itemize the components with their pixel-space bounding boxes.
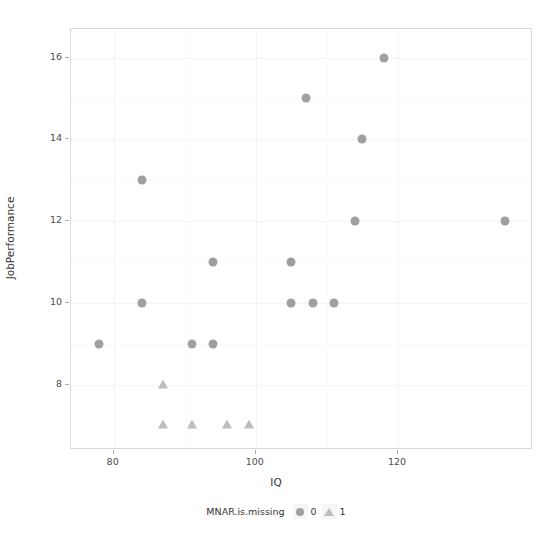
data-point-circle xyxy=(287,257,296,266)
y-tick-label: 16 xyxy=(38,52,62,62)
gridline-vertical xyxy=(114,29,115,448)
x-axis-title: IQ xyxy=(0,476,552,488)
data-point-circle xyxy=(209,339,218,348)
y-tick-mark xyxy=(65,302,69,303)
gridline-horizontal xyxy=(71,221,531,222)
data-point-circle xyxy=(287,298,296,307)
y-tick-mark xyxy=(65,138,69,139)
data-point-triangle xyxy=(222,420,232,429)
x-tick-label: 80 xyxy=(107,457,119,467)
data-point-circle xyxy=(209,257,218,266)
gridline-horizontal-minor xyxy=(71,262,531,263)
data-point-triangle xyxy=(244,420,254,429)
data-point-circle xyxy=(95,339,104,348)
data-point-triangle xyxy=(187,420,197,429)
legend-entry-1[interactable]: 1 xyxy=(322,504,346,519)
x-tick-mark xyxy=(255,450,256,454)
legend: MNAR.is.missing 01 xyxy=(0,504,552,519)
legend-label: 0 xyxy=(311,506,317,517)
x-tick-label: 120 xyxy=(388,457,406,467)
scatter-plot-figure: 80100120810121416 JobPerformance IQ MNAR… xyxy=(0,0,552,547)
gridline-horizontal-minor xyxy=(71,344,531,345)
y-tick-label: 8 xyxy=(38,379,62,389)
plot-panel xyxy=(70,28,532,449)
data-point-circle xyxy=(351,217,360,226)
data-point-circle xyxy=(138,298,147,307)
data-point-circle xyxy=(379,53,388,62)
legend-title: MNAR.is.missing xyxy=(206,506,284,517)
y-tick-mark xyxy=(65,384,69,385)
y-tick-mark xyxy=(65,220,69,221)
gridline-vertical xyxy=(256,29,257,448)
y-tick-label: 14 xyxy=(38,133,62,143)
x-tick-label: 100 xyxy=(246,457,264,467)
gridline-horizontal xyxy=(71,385,531,386)
data-point-circle xyxy=(500,217,509,226)
gridline-horizontal xyxy=(71,139,531,140)
y-tick-mark xyxy=(65,57,69,58)
data-point-circle xyxy=(308,298,317,307)
y-tick-label: 12 xyxy=(38,215,62,225)
gridline-vertical-minor xyxy=(327,29,328,448)
gridline-vertical xyxy=(398,29,399,448)
data-point-circle xyxy=(301,94,310,103)
data-point-triangle xyxy=(158,379,168,388)
data-point-triangle xyxy=(158,420,168,429)
legend-entry-0[interactable]: 0 xyxy=(293,504,317,519)
gridline-horizontal xyxy=(71,58,531,59)
y-tick-label: 10 xyxy=(38,297,62,307)
data-point-circle xyxy=(187,339,196,348)
circle-marker-icon xyxy=(293,504,308,519)
data-point-circle xyxy=(138,176,147,185)
data-point-circle xyxy=(358,135,367,144)
gridline-vertical-minor xyxy=(185,29,186,448)
x-tick-mark xyxy=(397,450,398,454)
y-axis-title: JobPerformance xyxy=(4,197,16,280)
triangle-marker-icon xyxy=(322,504,337,519)
x-tick-mark xyxy=(113,450,114,454)
data-point-circle xyxy=(329,298,338,307)
legend-label: 1 xyxy=(340,506,346,517)
